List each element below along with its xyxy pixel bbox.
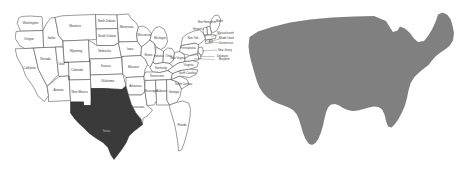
united-states-silhouette-svg — [234, 0, 468, 169]
state-label-IN: Indiana — [154, 54, 164, 58]
state-label-WA: Washington — [23, 21, 39, 25]
state-label-TX: Texas — [103, 129, 111, 133]
state-shape-MA[interactable] — [205, 35, 216, 41]
state-label-NH: New Hampshire — [198, 20, 217, 24]
state-label-VT: Vermont — [193, 27, 203, 31]
state-label-WY: Wyoming — [70, 49, 83, 53]
state-label-ME: Maine — [216, 19, 224, 23]
leader-line-NJ — [202, 50, 218, 51]
state-label-LA: Louisiana — [132, 105, 145, 109]
state-label-DE: Delaware — [217, 54, 229, 58]
state-label-SC: South Carolina — [175, 82, 193, 86]
state-label-OR: Oregon — [24, 37, 34, 41]
state-label-CO: Colorado — [71, 68, 83, 72]
state-label-VA: Virginia — [184, 63, 194, 67]
state-label-KY: Kentucky — [155, 66, 168, 70]
state-shape-MD[interactable] — [185, 55, 200, 62]
state-label-OK: Oklahoma — [101, 79, 115, 83]
state-label-MT: Montana — [69, 24, 81, 28]
state-label-MS: Mississippi — [144, 89, 157, 93]
state-label-CT: Connecticut — [219, 41, 233, 45]
state-label-NM: New Mexico — [71, 90, 88, 94]
left-map-panel: Washington Oregon California Nevada Idah… — [0, 0, 234, 169]
state-label-NE: Nebraska — [98, 49, 111, 53]
state-label-CA: California — [23, 66, 36, 70]
state-label-ID: Idaho — [48, 36, 56, 40]
united-states-state-map-svg: Washington Oregon California Nevada Idah… — [0, 0, 234, 169]
state-label-MA: Massachusetts — [217, 31, 234, 35]
state-label-MO: Missouri — [128, 65, 139, 69]
state-label-TN: Tennessee — [150, 74, 165, 78]
state-label-AZ: Arizona — [53, 88, 63, 92]
state-label-SD: South Dakota — [98, 34, 116, 38]
figure-canvas: Washington Oregon California Nevada Idah… — [0, 0, 468, 169]
state-label-RI: Rhode Island — [219, 36, 234, 40]
state-label-ND: North Dakota — [98, 19, 116, 23]
state-label-WI: Wisconsin — [137, 33, 151, 37]
right-map-panel — [234, 0, 468, 169]
state-label-UT: Utah — [58, 62, 65, 66]
state-label-AR: Arkansas — [129, 84, 142, 88]
state-shape-RI[interactable] — [210, 39, 212, 43]
state-label-AL: Alabama — [156, 89, 167, 93]
state-label-WV: West Virginia — [170, 56, 186, 60]
state-label-NJ: New Jersey — [218, 48, 232, 52]
state-label-GA: Georgia — [169, 90, 180, 94]
state-label-NC: North Carolina — [179, 71, 196, 75]
state-label-NV: Nevada — [40, 57, 51, 61]
state-label-IL: Illinois — [144, 53, 153, 57]
state-label-PA: Pennsylvania — [180, 46, 196, 50]
state-label-MN: Minnesota — [120, 25, 134, 29]
state-label-MI: Michigan — [154, 36, 166, 40]
state-label-KS: Kansas — [101, 64, 111, 68]
state-label-FL: Florida — [177, 123, 186, 127]
state-label-IA: Iowa — [127, 47, 134, 51]
us-silhouette-shape[interactable] — [249, 13, 455, 146]
state-label-NY: New York — [187, 36, 199, 40]
